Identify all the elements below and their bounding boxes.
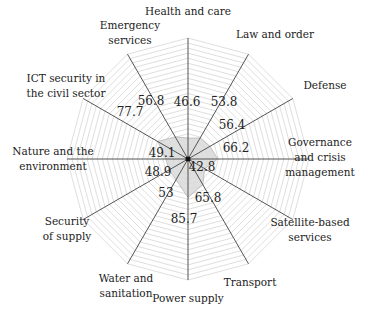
center-point (186, 157, 191, 162)
axis-label: Emergencyservices (100, 19, 160, 46)
axis-label: Law and order (236, 28, 315, 40)
value-label: 48.9 (145, 165, 172, 179)
axis-label: Water andsanitation (99, 272, 154, 299)
axis-label: Satellite-basedservices (270, 216, 350, 243)
value-label: 66.2 (223, 141, 250, 155)
value-label: 53.8 (211, 95, 238, 109)
axis-label: Health and care (145, 5, 231, 17)
radar-chart: 46.653.856.466.242.865.885.75348.949.177… (0, 0, 370, 321)
value-label: 53 (158, 186, 173, 200)
value-label: 49.1 (149, 146, 176, 160)
value-label: 42.8 (189, 160, 216, 174)
axis-label: Defense (303, 79, 346, 91)
value-label: 56.8 (138, 94, 165, 108)
axis-label: Governanceand crisismanagement (285, 136, 355, 178)
value-label: 65.8 (195, 191, 222, 205)
axis-label: Securityof supply (43, 215, 91, 242)
value-label: 56.4 (219, 118, 246, 132)
axis-label: Power supply (152, 292, 223, 304)
axis-label: Transport (224, 276, 277, 288)
value-label: 46.6 (174, 95, 201, 109)
value-label: 85.7 (171, 212, 198, 226)
axis-label: ICT security inthe civil sector (27, 72, 107, 99)
